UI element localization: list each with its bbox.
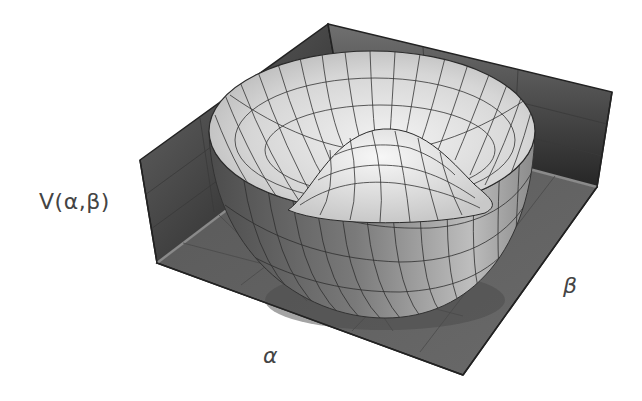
y-axis-label: β xyxy=(563,273,577,298)
z-axis-label: V(α,β) xyxy=(39,189,110,214)
x-axis-label: α xyxy=(263,343,278,368)
